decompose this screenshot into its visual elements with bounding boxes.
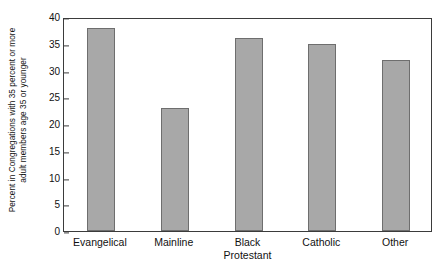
y-tick-label: 10 — [34, 174, 60, 184]
x-category-label: Evangelical — [73, 236, 127, 249]
plot-area — [63, 18, 432, 232]
x-category-label-line: Other — [382, 236, 408, 248]
x-category-label-line: Catholic — [302, 236, 340, 248]
y-tick-label: 35 — [34, 40, 60, 50]
x-category-label: Catholic — [302, 236, 340, 249]
y-axis-title-line-2: adult members age 35 or younger — [18, 28, 29, 213]
y-tick-label: 30 — [34, 67, 60, 77]
y-tick-mark — [64, 152, 69, 153]
bar — [87, 28, 115, 231]
y-tick-label: 15 — [34, 147, 60, 157]
y-tick-mark — [64, 45, 69, 46]
bar — [382, 60, 410, 231]
y-tick-label: 20 — [34, 120, 60, 130]
y-axis-title-line-1: Percent in Congregations with 35 percent… — [7, 28, 18, 213]
x-category-label-line: Black — [235, 236, 261, 248]
y-tick-mark — [64, 232, 69, 233]
x-category-label: Mainline — [154, 236, 193, 249]
x-category-label-line: Protestant — [224, 249, 272, 262]
bar — [235, 38, 263, 231]
x-axis-category-labels: EvangelicalMainlineBlackProtestantCathol… — [63, 236, 432, 280]
bar — [308, 44, 336, 231]
x-category-label-line: Evangelical — [73, 236, 127, 248]
y-tick-mark — [64, 179, 69, 180]
y-axis-title: Percent in Congregations with 35 percent… — [0, 0, 36, 240]
bar-chart-figure: Percent in Congregations with 35 percent… — [0, 0, 448, 280]
y-tick-label: 25 — [34, 93, 60, 103]
caption-sliver — [8, 276, 308, 279]
y-tick-mark — [64, 206, 69, 207]
x-category-label: BlackProtestant — [224, 236, 272, 262]
y-tick-label: 5 — [34, 200, 60, 210]
y-tick-mark — [64, 125, 69, 126]
y-tick-mark — [64, 18, 69, 19]
y-tick-label: 0 — [34, 227, 60, 237]
bar — [161, 108, 189, 231]
y-axis-tick-labels: 0510152025303540 — [34, 0, 60, 280]
y-tick-label: 40 — [34, 13, 60, 23]
y-tick-mark — [64, 99, 69, 100]
y-tick-mark — [64, 72, 69, 73]
x-category-label: Other — [382, 236, 408, 249]
x-category-label-line: Mainline — [154, 236, 193, 248]
